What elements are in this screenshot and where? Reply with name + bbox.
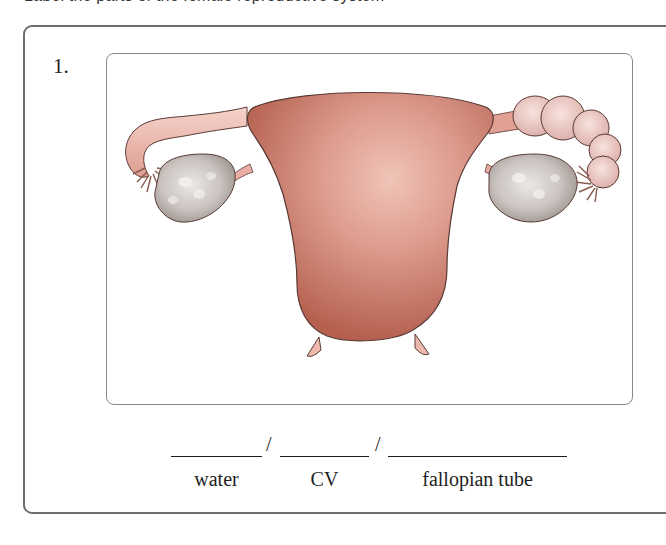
answer-blank-2[interactable] <box>280 456 369 457</box>
question-number: 1. <box>53 56 69 77</box>
anatomy-image-frame <box>106 53 633 405</box>
uterus-illustration <box>107 54 633 405</box>
answer-blank-3[interactable] <box>388 456 567 457</box>
vagina-wall-right <box>415 334 429 355</box>
instruction-text: Label the parts of the female reproducti… <box>24 0 384 5</box>
answer-blank-1[interactable] <box>171 456 262 457</box>
answer-label-3: fallopian tube <box>388 469 567 489</box>
separator-slash-1: / <box>266 434 272 454</box>
separator-slash-2: / <box>375 434 381 454</box>
answer-label-1: water <box>171 469 262 489</box>
vagina-wall-left <box>307 337 321 356</box>
left-ovary <box>155 154 235 222</box>
right-ovary <box>489 154 577 222</box>
uterus-body <box>247 93 493 341</box>
answer-label-2: CV <box>280 469 369 489</box>
